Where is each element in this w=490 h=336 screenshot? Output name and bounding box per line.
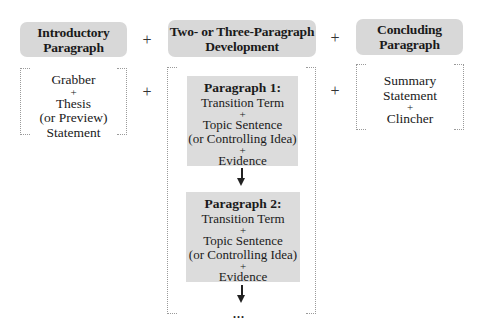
- content-line: (or Preview): [20, 111, 127, 126]
- plus-operator: +: [328, 30, 342, 46]
- concluding-paragraph-content: Summary Statement + Clincher: [356, 74, 464, 127]
- paragraph-title: Paragraph 2:: [186, 196, 300, 212]
- header-line: Paragraph: [377, 37, 442, 52]
- paragraph-title: Paragraph 1:: [187, 80, 298, 96]
- paragraph-2-box: Paragraph 2: Transition Term + Topic Sen…: [186, 192, 300, 282]
- concluding-paragraph-header: Concluding Paragraph: [356, 19, 463, 55]
- paragraph-line: Evidence: [186, 270, 300, 284]
- paragraph-line: Topic Sentence: [186, 234, 300, 248]
- content-line: Clincher: [356, 112, 464, 127]
- plus-operator: +: [140, 84, 154, 100]
- content-line: Thesis: [20, 97, 127, 112]
- paragraph-line: Evidence: [187, 154, 298, 168]
- introductory-paragraph-header: Introductory Paragraph: [20, 22, 127, 57]
- content-line: Statement: [20, 126, 127, 141]
- header-line: Concluding: [377, 22, 442, 37]
- paragraph-line: Topic Sentence: [187, 118, 298, 132]
- plus-operator: +: [328, 83, 342, 99]
- content-line: Summary: [356, 74, 464, 89]
- header-line: Paragraph: [37, 40, 109, 55]
- introductory-paragraph-content: Grabber + Thesis (or Preview) Statement: [20, 73, 127, 140]
- down-arrow-icon: [237, 285, 246, 303]
- paragraph-1-box: Paragraph 1: Transition Term + Topic Sen…: [187, 76, 298, 166]
- header-line: Introductory: [37, 25, 109, 40]
- development-header: Two- or Three-Paragraph Development: [168, 20, 316, 57]
- header-line: Development: [170, 39, 314, 54]
- down-arrow-icon: [237, 168, 246, 186]
- header-line: Two- or Three-Paragraph: [170, 24, 314, 39]
- plus-operator: +: [140, 32, 154, 48]
- continuation-ellipsis: ...: [233, 309, 245, 319]
